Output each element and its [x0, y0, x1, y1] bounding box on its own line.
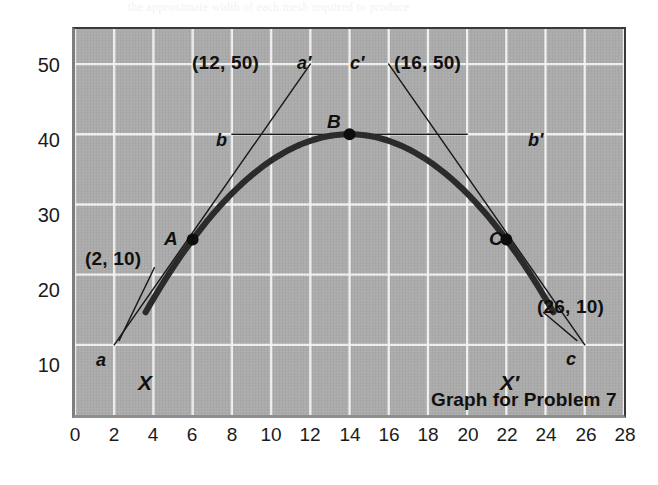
plot-area [72, 27, 626, 418]
y-tick-label-10: 10 [4, 354, 60, 377]
tangent-endpoint-label-a-prime: a′ [297, 53, 311, 74]
figure-caption: Graph for Problem 7 [431, 389, 617, 411]
y-tick-label-20: 20 [4, 279, 60, 302]
coord-label-a-prime: (12, 50) [192, 52, 259, 74]
point-label-B: B [327, 111, 341, 133]
x-tick-label-22: 22 [496, 424, 517, 446]
point-label-C: C [489, 228, 503, 250]
x-tick-label-20: 20 [457, 424, 478, 446]
data-layer [75, 29, 624, 415]
tangent-endpoint-label-a: a [96, 350, 106, 371]
x-tick-label-26: 26 [575, 424, 596, 446]
tangent-endpoint-label-c-prime: c′ [350, 53, 364, 74]
coord-label-c: (26, 10) [537, 296, 604, 318]
x-tick-label-4: 4 [148, 424, 159, 446]
tangent-endpoint-label-c: c [566, 349, 576, 370]
coord-label-c-prime: (16, 50) [394, 52, 461, 74]
y-tick-label-50: 50 [4, 54, 60, 77]
y-tick-label-40: 40 [4, 129, 60, 152]
tangent-endpoint-label-b-prime: b′ [528, 130, 543, 151]
x-tick-label-0: 0 [70, 424, 81, 446]
coord-label-a: (2, 10) [85, 248, 141, 270]
x-tick-label-14: 14 [339, 424, 360, 446]
point-label-A: A [164, 228, 178, 250]
x-tick-label-6: 6 [187, 424, 198, 446]
page-bleed-through-text: the approximate width of each mesh requi… [128, 1, 558, 15]
x-tick-label-18: 18 [417, 424, 438, 446]
x-tick-label-16: 16 [378, 424, 399, 446]
x-tick-label-24: 24 [535, 424, 556, 446]
y-tick-label-30: 30 [4, 204, 60, 227]
x-tick-label-8: 8 [227, 424, 238, 446]
x-tick-label-2: 2 [109, 424, 120, 446]
tangent-endpoint-label-b: b [216, 130, 227, 151]
x-tick-label-12: 12 [299, 424, 320, 446]
curve-endpoint-label-X: X [138, 371, 152, 395]
graph-figure: the approximate width of each mesh requi… [0, 0, 658, 485]
x-tick-label-10: 10 [260, 424, 281, 446]
x-tick-label-28: 28 [614, 424, 635, 446]
